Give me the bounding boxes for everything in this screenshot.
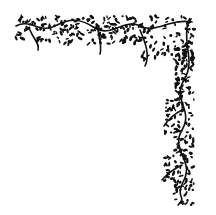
corner-vine-ornament (0, 0, 216, 215)
leaves (14, 14, 196, 207)
